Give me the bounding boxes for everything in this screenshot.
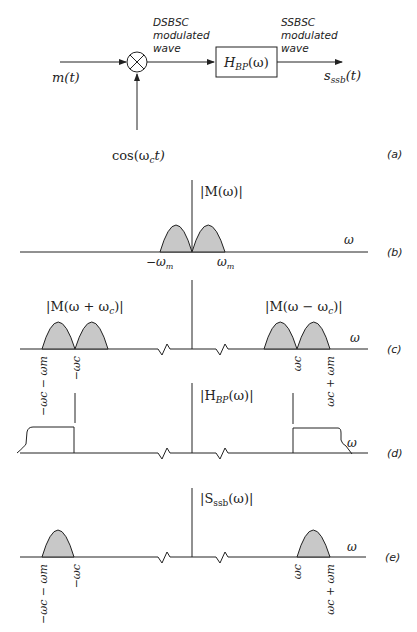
panel-label-c: (c) — [387, 343, 402, 356]
right-lobe-1 — [264, 322, 297, 349]
svg-text:modulated: modulated — [281, 29, 338, 41]
left-lobe-1 — [42, 322, 75, 349]
omega-label: ω — [347, 540, 357, 554]
block-diagram: m(t) cos(ωct) DSBSC modulated wave HBP(ω… — [52, 16, 402, 165]
panel-b-baseband-spectrum: |M(ω)| ω −ωm ωm (b) — [20, 180, 403, 271]
panel-b-title: |M(ω)| — [200, 184, 243, 199]
left-lobe-2 — [75, 322, 108, 349]
right-title: |M(ω − ωc)| — [265, 299, 343, 316]
dsbsc-label: DSBSC modulated wave — [153, 16, 210, 54]
panel-e-title: |Sssb(ω)| — [200, 491, 253, 508]
right-passband — [293, 428, 352, 454]
right-lobe-2 — [297, 322, 330, 349]
omega-label: ω — [347, 436, 357, 450]
tick-wc: ωc — [291, 564, 304, 579]
panel-d-filter-response: |HBP(ω)| ω (d) — [17, 383, 403, 460]
omega-label: ω — [350, 331, 360, 345]
mixer-icon — [127, 52, 147, 72]
lower-sideband-lobe — [42, 530, 74, 557]
panel-label-d: (d) — [387, 447, 403, 460]
ssbsc-label: SSBSC modulated wave — [281, 16, 338, 54]
panel-d-title: |HBP(ω)| — [200, 388, 254, 405]
omega-label: ω — [344, 233, 354, 247]
tick-wc-plus-wm: ωc + ωm — [324, 564, 337, 615]
omega-axis — [20, 448, 368, 459]
lower-lobe — [160, 225, 192, 252]
upper-sideband-lobe — [297, 530, 330, 557]
panel-label-b: (b) — [387, 246, 403, 259]
output-label: sssb(t) — [324, 68, 361, 85]
panel-label-e: (e) — [385, 551, 400, 564]
input-label: m(t) — [52, 70, 80, 85]
tick-wc: ωc — [291, 356, 304, 371]
left-passband — [17, 427, 74, 453]
tick-neg-wm: −ωm — [146, 255, 174, 271]
tick-neg-wc: −ωc — [70, 356, 83, 380]
svg-text:SSBSC: SSBSC — [281, 16, 316, 28]
upper-lobe — [192, 225, 225, 252]
tick-neg-wc-minus-wm: −ωc − ωm — [37, 356, 50, 416]
tick-neg-wc-minus-wm: −ωc − ωm — [37, 564, 50, 624]
left-title: |M(ω + ωc)| — [46, 299, 124, 316]
svg-text:DSBSC: DSBSC — [153, 16, 190, 28]
svg-text:wave: wave — [153, 42, 181, 54]
tick-neg-wc: −ωc — [70, 564, 83, 588]
tick-wc-plus-wm: ωc + ωm — [324, 356, 337, 407]
ssb-modulation-figure: m(t) cos(ωct) DSBSC modulated wave HBP(ω… — [0, 0, 417, 632]
panel-label-a: (a) — [387, 148, 402, 161]
panel-e-ssb-spectrum: |Sssb(ω)| ω −ωc − ωm −ωc ωc ωc + ωm (e) — [20, 488, 400, 624]
svg-text:modulated: modulated — [153, 29, 210, 41]
carrier-label: cos(ωct) — [112, 148, 165, 165]
svg-text:wave: wave — [281, 42, 309, 54]
tick-pos-wm: ωm — [217, 255, 235, 271]
